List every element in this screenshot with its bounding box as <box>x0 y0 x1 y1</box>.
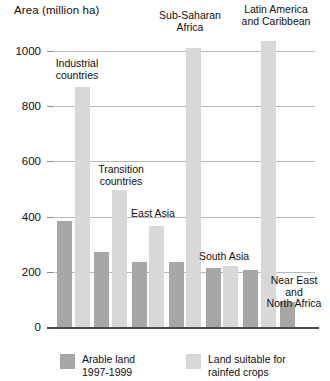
bar-arable-land-1997-1999-south-asia <box>206 268 221 327</box>
group-label-latin-america-and-caribbean: Latin America and Caribbean <box>228 4 324 27</box>
bar-land-suitable-for-rainfed-crops-south-asia <box>223 266 238 327</box>
y-axis-label: 800 <box>1 100 41 112</box>
y-axis-tick <box>47 161 54 162</box>
legend-label-land-suitable-rainfed: Land suitable for rainfed crops <box>208 353 286 378</box>
y-axis-label: 600 <box>1 155 41 167</box>
y-axis-tick <box>47 51 54 52</box>
y-axis-label: 0 <box>1 321 41 333</box>
chart-axis-title: Area (million ha) <box>14 4 99 16</box>
bar-arable-land-1997-1999-industrial-countries <box>57 221 72 327</box>
legend-label-arable-land: Arable land 1997-1999 <box>82 353 135 378</box>
legend-swatch-land-suitable-rainfed <box>186 354 201 369</box>
legend-item-land-suitable-rainfed[interactable]: Land suitable for rainfed crops <box>186 353 286 378</box>
bar-land-suitable-for-rainfed-crops-sub-saharan-africa <box>186 48 201 327</box>
group-label-east-asia: East Asia <box>120 208 186 220</box>
y-axis-tick <box>47 106 54 107</box>
group-label-near-east-and-north-africa: Near East and North Africa <box>258 275 330 310</box>
group-label-sub-saharan-africa: Sub-Saharan Africa <box>152 10 228 33</box>
chart-figure: Area (million ha) 10008006004002000 Indu… <box>0 0 330 381</box>
group-label-industrial-countries: Industrial countries <box>38 58 116 81</box>
bar-arable-land-1997-1999-sub-saharan-africa <box>169 262 184 327</box>
chart-legend: Arable land 1997-1999Land suitable for r… <box>0 345 330 381</box>
bar-arable-land-1997-1999-transition-countries <box>94 252 109 327</box>
y-axis-label: 200 <box>1 266 41 278</box>
legend-swatch-arable-land <box>60 354 75 369</box>
y-axis-tick <box>47 272 54 273</box>
group-label-south-asia: South Asia <box>188 251 260 263</box>
bar-arable-land-1997-1999-east-asia <box>132 262 147 327</box>
group-label-transition-countries: Transition countries <box>78 164 164 187</box>
y-axis-label: 400 <box>1 211 41 223</box>
bar-land-suitable-for-rainfed-crops-east-asia <box>149 226 164 327</box>
x-axis-baseline <box>47 327 319 329</box>
bar-arable-land-1997-1999-latin-america-and-caribbean <box>243 270 258 327</box>
bar-land-suitable-for-rainfed-crops-industrial-countries <box>75 87 90 327</box>
y-axis-tick <box>47 217 54 218</box>
y-axis-label: 1000 <box>1 45 41 57</box>
legend-item-arable-land[interactable]: Arable land 1997-1999 <box>60 353 135 378</box>
